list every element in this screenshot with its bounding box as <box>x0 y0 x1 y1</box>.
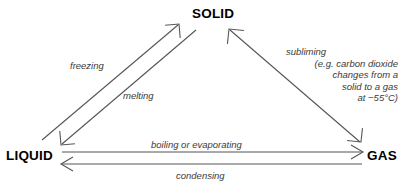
state-label-solid: SOLID <box>192 6 234 21</box>
transition-label-condensing: condensing <box>176 170 225 181</box>
subliming-arrowhead <box>227 29 243 45</box>
freezing-arrowhead <box>165 24 180 39</box>
transition-label-boiling: boiling or evaporating <box>151 139 242 150</box>
transition-label-freezing: freezing <box>70 60 104 71</box>
subliming-note-line-2: changes from a <box>286 69 398 81</box>
deposition-arrowhead <box>347 127 362 142</box>
phase-change-diagram: SOLID LIQUID GAS freezing melting boilin… <box>0 0 410 190</box>
subliming-note-line-3: solid to a gas <box>286 81 398 93</box>
condensing-arrow <box>61 157 362 171</box>
state-label-liquid: LIQUID <box>6 148 53 163</box>
melting-arrow <box>60 30 196 145</box>
transition-label-melting: melting <box>123 90 154 101</box>
subliming-note-line-4: at −55°C) <box>286 92 398 104</box>
subliming-annotation: subliming (e.g. carbon dioxide changes f… <box>286 46 398 104</box>
transition-label-subliming: subliming <box>286 46 398 58</box>
subliming-note-line-1: (e.g. carbon dioxide <box>286 58 398 70</box>
melting-arrowhead <box>60 130 75 145</box>
state-label-gas: GAS <box>367 148 397 163</box>
freezing-arrow <box>42 24 180 140</box>
